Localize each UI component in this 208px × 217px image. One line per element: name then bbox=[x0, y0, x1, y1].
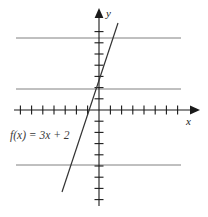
y-axis-label: y bbox=[105, 7, 111, 19]
function-equation-label: f(x) = 3x + 2 bbox=[10, 129, 70, 142]
coordinate-plane-svg: y x f(x) = 3x + 2 bbox=[0, 0, 208, 217]
graph-figure: y x f(x) = 3x + 2 bbox=[0, 0, 208, 217]
x-axis-label: x bbox=[185, 115, 191, 127]
